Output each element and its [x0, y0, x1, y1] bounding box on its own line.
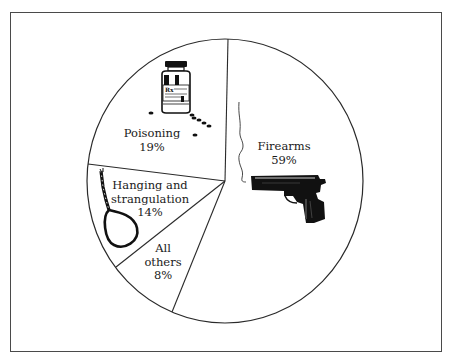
- label-hanging: Hanging and strangulation 14%: [109, 179, 191, 220]
- label-poisoning: Poisoning 19%: [117, 127, 187, 154]
- label-others-name-1: All: [138, 242, 188, 256]
- label-others-name-2: others: [138, 256, 188, 270]
- label-hanging-value: 14%: [109, 206, 191, 220]
- label-firearms-name: Firearms: [252, 140, 316, 154]
- label-hanging-name-2: strangulation: [109, 193, 191, 207]
- label-others-value: 8%: [138, 269, 188, 283]
- pie-chart: Rx: [0, 0, 450, 359]
- label-hanging-name-1: Hanging and: [109, 179, 191, 193]
- svg-text:Rx: Rx: [165, 86, 174, 93]
- label-firearms-value: 59%: [252, 154, 316, 168]
- label-firearms: Firearms 59%: [252, 140, 316, 167]
- label-poisoning-value: 19%: [117, 141, 187, 155]
- label-poisoning-name: Poisoning: [117, 127, 187, 141]
- label-others: All others 8%: [138, 242, 188, 283]
